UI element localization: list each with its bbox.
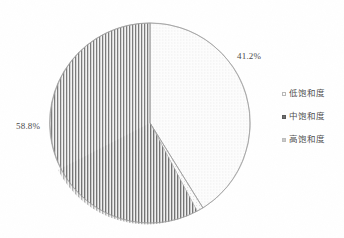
legend-label-high-saturation: 高饱和度 [289, 135, 325, 144]
legend: 低饱和度 中饱和度 高饱和度 [282, 82, 344, 151]
legend-label-low-saturation: 低饱和度 [289, 89, 325, 98]
pie-svg [0, 0, 270, 238]
data-label-mid-saturation: 58.8% [16, 122, 40, 131]
legend-item-low-saturation[interactable]: 低饱和度 [282, 82, 344, 105]
pie-chart-figure: 41.2% 58.8% 低饱和度 中饱和度 高饱和度 [0, 0, 344, 238]
legend-label-mid-saturation: 中饱和度 [289, 112, 325, 121]
pie-plot-area [0, 0, 270, 238]
legend-swatch-icon-high-saturation [282, 138, 286, 142]
legend-item-mid-saturation[interactable]: 中饱和度 [282, 105, 344, 128]
legend-swatch-icon-mid-saturation [282, 115, 286, 119]
legend-item-high-saturation[interactable]: 高饱和度 [282, 128, 344, 151]
data-label-low-saturation: 41.2% [237, 52, 261, 61]
legend-swatch-icon-low-saturation [282, 92, 286, 96]
